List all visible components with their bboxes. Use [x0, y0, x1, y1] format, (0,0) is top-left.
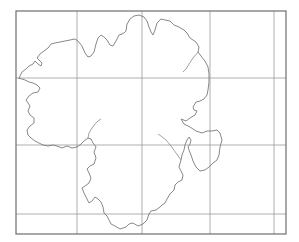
grid-lines — [16, 11, 286, 234]
map-frame — [16, 11, 286, 234]
internal-boundary-line — [158, 134, 181, 160]
internal-boundary-line — [183, 52, 198, 72]
region-outline — [19, 15, 222, 229]
internal-boundary-line — [88, 119, 101, 138]
map-canvas — [0, 0, 299, 242]
